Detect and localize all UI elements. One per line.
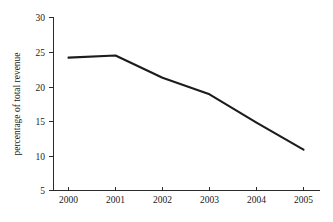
x-tick-label-2003: 2003 <box>200 195 219 205</box>
y-tick-label-30: 30 <box>36 13 46 23</box>
line-chart: 30 25 20 15 10 5 2000 2001 2002 2003 200… <box>0 0 333 222</box>
x-tick-label-2002: 2002 <box>153 195 172 205</box>
x-tick-label-2004: 2004 <box>247 195 266 205</box>
y-tick-label-5: 5 <box>40 186 45 196</box>
y-tick-label-25: 25 <box>36 48 46 58</box>
y-axis-title: percentage of total revenue <box>12 52 22 155</box>
x-tick-label-2005: 2005 <box>294 195 313 205</box>
y-tick-label-15: 15 <box>36 117 46 127</box>
y-tick-label-20: 20 <box>36 83 46 93</box>
x-tick-label-2001: 2001 <box>106 195 125 205</box>
y-tick-label-10: 10 <box>36 152 46 162</box>
chart-canvas: 30 25 20 15 10 5 2000 2001 2002 2003 200… <box>0 0 333 222</box>
chart-background <box>0 0 333 222</box>
x-tick-label-2000: 2000 <box>59 195 78 205</box>
